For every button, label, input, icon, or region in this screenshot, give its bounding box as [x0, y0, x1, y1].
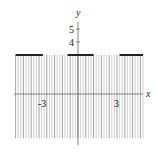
x-tick-label-neg3: -3	[38, 98, 46, 109]
y-tick-label-5: 5	[69, 24, 74, 35]
step-function-graph: y x 5 4 -3 3	[0, 0, 155, 168]
x-axis-label: x	[145, 88, 151, 99]
shaded-region	[16, 55, 143, 138]
y-axis-label: y	[75, 7, 81, 18]
x-tick-label-3: 3	[114, 98, 119, 109]
y-tick-label-4: 4	[69, 37, 74, 48]
